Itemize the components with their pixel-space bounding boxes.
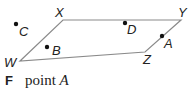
parallelogram-diagram: WXYZ ABCD	[0, 0, 194, 72]
answer-text: point A	[25, 72, 69, 89]
point-b-dot	[45, 45, 49, 49]
point-label-b: B	[52, 43, 61, 58]
answer-variable: A	[60, 72, 69, 88]
vertex-label-y: Y	[178, 5, 188, 20]
vertex-label-x: X	[54, 5, 65, 20]
answer-prefix: point	[25, 72, 60, 88]
point-label-d: D	[127, 22, 136, 37]
vertex-label-w: W	[4, 55, 18, 70]
answer-choice[interactable]: F point A	[5, 72, 69, 90]
parallelogram-wxyz	[20, 20, 181, 61]
point-label-a: A	[163, 36, 173, 51]
answer-letter: F	[5, 73, 25, 88]
point-c-dot	[14, 22, 18, 26]
vertex-label-z: Z	[142, 52, 152, 67]
point-label-c: C	[19, 24, 29, 39]
